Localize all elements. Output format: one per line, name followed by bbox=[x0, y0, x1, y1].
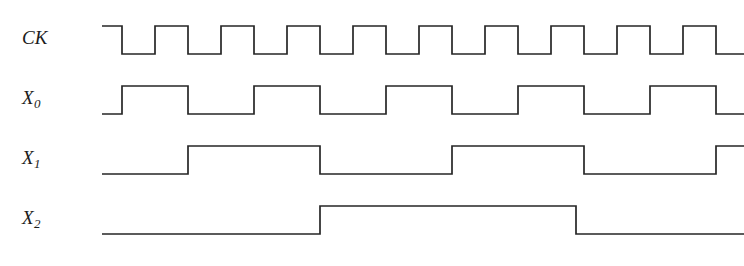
timing-diagram-figure: CK X0 X1 X2 bbox=[0, 0, 744, 266]
waveform-x1 bbox=[102, 146, 744, 174]
waveform-canvas bbox=[0, 0, 744, 266]
waveform-x2 bbox=[102, 206, 744, 234]
waveform-ck bbox=[102, 26, 744, 54]
waveform-x0 bbox=[102, 86, 744, 114]
